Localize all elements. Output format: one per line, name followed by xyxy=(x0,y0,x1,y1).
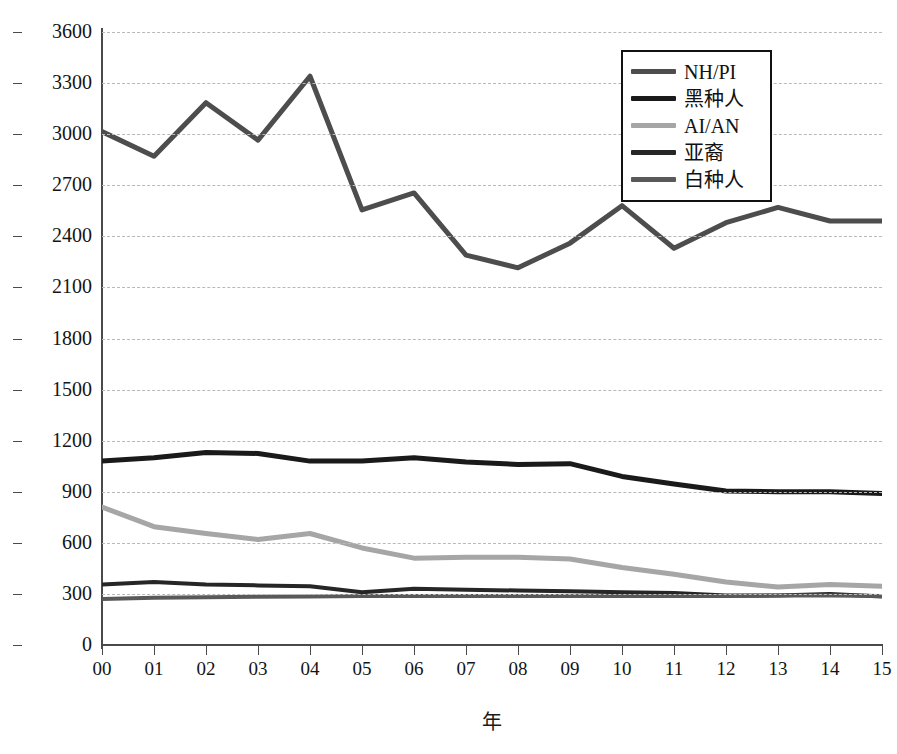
x-axis-tick-mark xyxy=(622,646,623,655)
gridline xyxy=(102,32,882,34)
x-axis-tick-mark xyxy=(414,646,415,655)
y-axis-tick-mark xyxy=(13,236,22,237)
y-axis-tick-mark xyxy=(13,287,22,288)
y-axis-tick-mark xyxy=(13,83,22,84)
legend-item-label: NH/PI xyxy=(684,62,736,82)
legend-item[interactable]: 亚裔 xyxy=(631,139,762,166)
gridline xyxy=(102,492,882,494)
legend-item-label: AI/AN xyxy=(684,116,740,136)
y-axis-tick-mark xyxy=(13,390,22,391)
y-axis-tick-mark xyxy=(13,492,22,493)
gridline xyxy=(102,543,882,545)
legend-item[interactable]: 白种人 xyxy=(631,166,762,193)
x-axis-tick-mark xyxy=(726,646,727,655)
y-axis-tick-mark xyxy=(13,543,22,544)
series-line xyxy=(102,507,882,587)
y-axis-tick-label: 2400 xyxy=(22,225,92,245)
chart-figure: 发病率（每一百万人口/年） 03006009001200150018002100… xyxy=(0,0,897,754)
x-axis-tick-label: 03 xyxy=(238,658,278,680)
x-axis-tick-mark xyxy=(102,646,103,655)
x-axis-tick-label: 07 xyxy=(446,658,486,680)
x-axis-tick-label: 08 xyxy=(498,658,538,680)
x-axis-title: 年 xyxy=(102,706,882,735)
gridline xyxy=(102,339,882,341)
gridline xyxy=(102,441,882,443)
x-axis-tick-label: 05 xyxy=(342,658,382,680)
y-axis-tick-label: 1800 xyxy=(22,328,92,348)
legend-item[interactable]: AI/AN xyxy=(631,112,762,139)
x-axis-tick-mark xyxy=(882,646,883,655)
y-axis-tick-mark xyxy=(13,441,22,442)
y-axis-tick-label: 1500 xyxy=(22,379,92,399)
y-axis-tick-mark xyxy=(13,594,22,595)
chart-legend: NH/PI黑种人AI/AN亚裔白种人 xyxy=(621,50,772,202)
legend-item-label: 黑种人 xyxy=(684,89,744,109)
x-axis-tick-labels: 00010203040506070809101112131415 xyxy=(102,658,882,686)
y-axis-tick-label: 600 xyxy=(22,532,92,552)
y-axis-tick-label: 2100 xyxy=(22,276,92,296)
x-axis-tick-label: 00 xyxy=(82,658,122,680)
x-axis-tick-mark xyxy=(206,646,207,655)
x-axis-tick-label: 09 xyxy=(550,658,590,680)
gridline xyxy=(102,594,882,596)
series-line xyxy=(102,596,882,599)
x-axis-tick-mark xyxy=(154,646,155,655)
legend-item[interactable]: 黑种人 xyxy=(631,85,762,112)
gridline xyxy=(102,390,882,392)
y-axis-tick-label: 2700 xyxy=(22,174,92,194)
x-axis-tick-marks xyxy=(102,646,882,656)
x-axis-tick-label: 04 xyxy=(290,658,330,680)
legend-line-swatch xyxy=(631,150,676,155)
x-axis-tick-label: 11 xyxy=(654,658,694,680)
x-axis-tick-label: 01 xyxy=(134,658,174,680)
x-axis-tick-label: 02 xyxy=(186,658,226,680)
series-line xyxy=(102,453,882,494)
y-axis-tick-label: 3000 xyxy=(22,123,92,143)
x-axis-tick-label: 06 xyxy=(394,658,434,680)
x-axis-tick-mark xyxy=(570,646,571,655)
y-axis-tick-label: 1200 xyxy=(22,430,92,450)
legend-line-swatch xyxy=(631,177,676,182)
x-axis-tick-label: 15 xyxy=(862,658,897,680)
gridline xyxy=(102,236,882,238)
y-axis-tick-mark xyxy=(13,645,22,646)
legend-line-swatch xyxy=(631,123,676,128)
y-axis-tick-labels: 0300600900120015001800210024002700300033… xyxy=(12,32,92,645)
x-axis-tick-label: 14 xyxy=(810,658,850,680)
y-axis-tick-mark xyxy=(13,339,22,340)
x-axis-tick-mark xyxy=(830,646,831,655)
y-axis-tick-mark xyxy=(13,185,22,186)
x-axis-tick-mark xyxy=(466,646,467,655)
x-axis-tick-mark xyxy=(518,646,519,655)
legend-line-swatch xyxy=(631,69,676,74)
x-axis-tick-label: 12 xyxy=(706,658,746,680)
y-axis-tick-label: 900 xyxy=(22,481,92,501)
y-axis-tick-mark xyxy=(13,134,22,135)
x-axis-tick-mark xyxy=(778,646,779,655)
y-axis-tick-mark xyxy=(13,32,22,33)
x-axis-tick-label: 10 xyxy=(602,658,642,680)
y-axis-tick-label: 0 xyxy=(22,634,92,654)
legend-line-swatch xyxy=(631,96,676,101)
legend-item[interactable]: NH/PI xyxy=(631,58,762,85)
legend-item-label: 亚裔 xyxy=(684,143,724,163)
y-axis-tick-label: 3600 xyxy=(22,21,92,41)
x-axis-tick-mark xyxy=(310,646,311,655)
gridline xyxy=(102,287,882,289)
y-axis-tick-label: 3300 xyxy=(22,72,92,92)
x-axis-tick-mark xyxy=(258,646,259,655)
y-axis-tick-label: 300 xyxy=(22,583,92,603)
x-axis-tick-mark xyxy=(362,646,363,655)
legend-item-label: 白种人 xyxy=(684,170,744,190)
x-axis-tick-mark xyxy=(674,646,675,655)
x-axis-tick-label: 13 xyxy=(758,658,798,680)
